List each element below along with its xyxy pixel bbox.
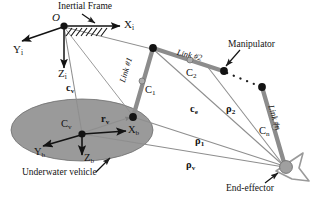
axis-xb-letter: X [128, 124, 136, 135]
axis-yi-label: Yi [13, 44, 23, 56]
vector-rhov-label: ρv [186, 160, 195, 172]
origin-dot [60, 22, 67, 29]
com-n-letter: C [259, 125, 266, 136]
com-n-subscript: n [266, 130, 270, 138]
vehicle-center-dot [78, 130, 85, 137]
vector-cv-subscript: v [71, 87, 75, 95]
vector-rv-label: rv [101, 114, 109, 126]
axis-yi-subscript: i [21, 48, 23, 57]
axis-yi-letter: Y [13, 43, 21, 55]
vector-rho1-label: ρ1 [195, 136, 204, 148]
vehicle-center-label: Cv [61, 119, 72, 131]
vector-origin-to-joint1 [64, 27, 152, 49]
com-2-subscript: 2 [193, 72, 197, 80]
axis-yi [22, 27, 63, 41]
figure-canvas: O Inertial Frame Xi Yi Zi cv Cv rv Xb Yb… [0, 0, 317, 198]
manipulator-pointer [226, 50, 240, 66]
axis-yb-letter: Y [34, 146, 42, 157]
underwater-vehicle-label: Underwater vehicle [22, 168, 97, 178]
axis-zi-letter: Z [58, 67, 65, 79]
omitted-links-dotted [227, 73, 259, 86]
origin-label: O [52, 12, 60, 23]
vehicle-center-letter: C [61, 118, 68, 129]
com-1-label: C1 [145, 85, 156, 97]
vector-ce-subscript: e [195, 108, 198, 116]
inertial-frame-pointer [82, 14, 95, 23]
vector-ce-label: ce [190, 104, 198, 116]
axis-xi-subscript: i [132, 23, 134, 32]
axis-yb-label: Yb [34, 147, 45, 159]
vehicle-center-subscript: v [68, 123, 72, 131]
joint-1 [149, 44, 157, 52]
manipulator-label: Manipulator [228, 40, 275, 50]
vector-rhov-subscript: v [192, 164, 196, 172]
vector-rho2-label: ρ2 [226, 104, 235, 116]
vector-rho2-subscript: 2 [232, 108, 236, 116]
com-1-subscript: 1 [152, 89, 156, 97]
axis-zb-subscript: b [90, 157, 94, 165]
vector-rho1-subscript: 1 [201, 140, 205, 148]
com-2-label: C2 [186, 68, 197, 80]
axis-zi-subscript: i [65, 72, 67, 81]
joint-2 [220, 67, 228, 75]
joint-base [129, 113, 137, 121]
vector-rv-subscript: v [106, 118, 110, 126]
vector-cv-label: cv [66, 83, 74, 95]
inertial-frame-label: Inertial Frame [58, 2, 112, 12]
axis-xi-label: Xi [124, 19, 134, 31]
axis-xb-subscript: b [136, 129, 140, 137]
com-1-letter: C [145, 84, 152, 95]
axis-zi-label: Zi [58, 68, 67, 80]
axis-xb-label: Xb [128, 125, 139, 137]
axis-yb-subscript: b [42, 151, 46, 159]
com-2-letter: C [186, 67, 193, 78]
com-n-label: Cn [259, 126, 270, 138]
end-effector-pointer [265, 173, 278, 183]
end-effector-label: End-effector [226, 184, 274, 194]
axis-xi-letter: X [124, 18, 132, 30]
axis-zb-label: Zb [84, 153, 94, 165]
joint-3 [258, 83, 266, 91]
